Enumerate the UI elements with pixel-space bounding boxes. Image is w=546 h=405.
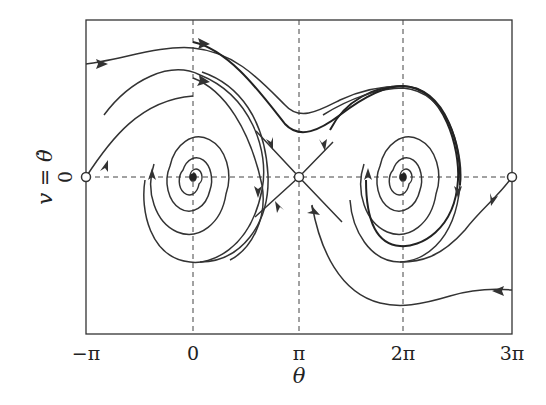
saddle-3pi-marker [508, 173, 517, 182]
y-axis-labels: 0 v = θ̇ [33, 149, 76, 205]
x-tick-0: 0 [187, 342, 199, 364]
phase-portrait: −π 0 π 2π 3π θ 0 v = θ̇ [0, 0, 546, 405]
spiral-2pi-marker [400, 174, 407, 181]
x-tick-neg-pi: −π [72, 342, 100, 364]
y-axis-label: v = θ̇ [33, 149, 57, 205]
x-tick-2pi: 2π [391, 342, 416, 364]
y-tick-0: 0 [54, 171, 76, 183]
saddle-pi-marker [295, 173, 304, 182]
saddle-minus-pi-marker [82, 173, 91, 182]
x-tick-3pi: 3π [500, 342, 525, 364]
upper-trajectories [86, 42, 460, 260]
spiral-0-marker [190, 174, 197, 181]
direction-arrows [96, 38, 504, 296]
x-tick-labels: −π 0 π 2π 3π [72, 342, 525, 364]
fixed-points [82, 173, 517, 182]
spiral-around-0 [104, 70, 268, 262]
x-axis-label: θ [293, 364, 306, 388]
x-tick-pi: π [293, 342, 306, 364]
lower-trajectories [312, 177, 512, 305]
separatrices-pi [86, 96, 342, 222]
